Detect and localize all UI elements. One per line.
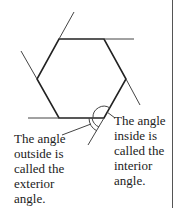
interior-angle-label: The angle inside is called the interior … — [114, 113, 174, 188]
hexagon — [37, 39, 126, 118]
right-border — [172, 0, 173, 208]
exterior-angle-label: The angle outside is called the exterior… — [14, 131, 94, 206]
extension-line — [59, 12, 74, 39]
extension-line — [126, 79, 140, 105]
exterior-angle-arc — [92, 118, 99, 127]
extension-line — [21, 51, 37, 79]
hexagon-angle-diagram: The angle outside is called the exterior… — [0, 0, 175, 208]
